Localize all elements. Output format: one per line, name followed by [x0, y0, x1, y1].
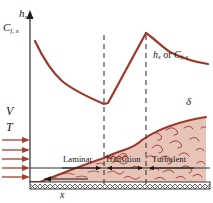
inlet-flow-arrowheads	[22, 137, 30, 180]
plate-wall-hatched	[30, 182, 210, 189]
region-label-turbulent: Turbulent	[152, 155, 186, 164]
x-axis-label: x	[60, 190, 64, 200]
region-label-laminar: Laminar	[63, 155, 93, 164]
heat-transfer-coefficient-curve	[35, 33, 208, 104]
y-axis-label-cf: Cf, x	[3, 22, 19, 34]
boundary-layer-figure: hx Cf, x V T hx or Cf, x δ Laminar Trans…	[0, 0, 213, 203]
boundary-layer-thickness-label: δ	[186, 96, 191, 107]
inlet-temperature-label: T	[6, 121, 13, 133]
boundary-layer-fill	[30, 117, 206, 182]
figure-canvas	[0, 0, 213, 203]
region-label-transition: Transition	[105, 155, 141, 164]
curve-label: hx or Cf, x	[153, 50, 188, 61]
inlet-velocity-label: V	[6, 105, 13, 117]
y-axis-label-h: hx	[19, 8, 28, 20]
